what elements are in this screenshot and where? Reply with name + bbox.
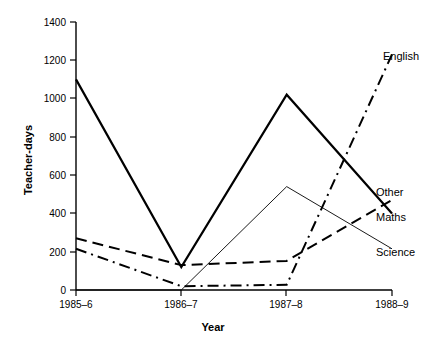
x-tick-labels: 1985–6 1986–7 1987–8 1988–9 — [59, 299, 409, 310]
series-label-other: Other — [376, 186, 404, 198]
y-tick-label: 1400 — [44, 17, 67, 28]
series-line-other — [76, 200, 392, 265]
y-tick-label: 1000 — [44, 93, 67, 104]
y-tick-label: 200 — [49, 247, 66, 258]
x-tick-label: 1988–9 — [375, 299, 409, 310]
chart-canvas: 1400 1200 1000 800 600 400 200 0 1985–6 … — [0, 0, 438, 343]
y-tick-label: 0 — [60, 285, 66, 296]
series-label-maths: Maths — [376, 211, 406, 223]
series-label-maths-group: Maths — [376, 211, 406, 223]
x-axis-title: Year — [201, 321, 225, 333]
y-tick-label: 600 — [49, 170, 66, 181]
x-tick-label: 1986–7 — [164, 299, 198, 310]
series-label-english: English — [383, 50, 419, 62]
y-tick-labels: 1400 1200 1000 800 600 400 200 0 — [44, 17, 67, 296]
series-label-science: Science — [376, 246, 415, 258]
series-line-science — [76, 187, 392, 290]
x-tick-label: 1985–6 — [59, 299, 93, 310]
y-tick-marks — [70, 22, 76, 290]
x-tick-marks — [76, 290, 392, 296]
line-chart: 1400 1200 1000 800 600 400 200 0 1985–6 … — [0, 0, 438, 343]
y-tick-label: 400 — [49, 208, 66, 219]
series-label-other-group: Other — [376, 186, 404, 198]
x-tick-label: 1987–8 — [269, 299, 303, 310]
series-label-english-group: English — [383, 50, 419, 62]
y-tick-label: 800 — [49, 132, 66, 143]
series-line-english — [76, 55, 392, 287]
y-tick-label: 1200 — [44, 55, 67, 66]
series-label-science-group: Science — [376, 246, 415, 258]
y-axis-title: Teacher-days — [22, 125, 34, 195]
